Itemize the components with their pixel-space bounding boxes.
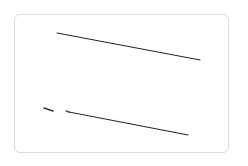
bottom-dash-stroke — [44, 108, 53, 111]
drawing-canvas — [0, 0, 248, 166]
bottom-line-stroke — [69, 112, 188, 135]
top-line-stroke — [57, 33, 200, 60]
